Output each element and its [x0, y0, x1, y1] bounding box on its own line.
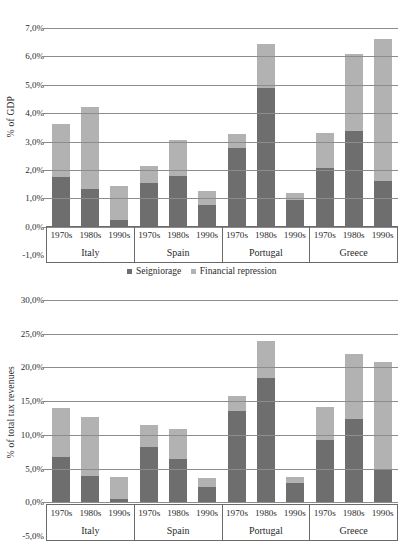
gdp-chart-gridline	[42, 56, 398, 57]
x-axis-period-label: 1980s	[76, 505, 105, 521]
segment-financial-repression	[228, 396, 246, 411]
gdp-chart-y-tick-label: 1,0%	[4, 194, 44, 203]
x-axis-period-label: 1980s	[76, 227, 105, 243]
tax-revenues-chart: % of total tax revenues 30,0%25,0%20,0%1…	[0, 282, 404, 554]
gdp-chart-gridline	[42, 113, 398, 114]
segment-financial-repression	[52, 408, 70, 457]
segment-financial-repression	[140, 425, 158, 447]
segment-financial-repression	[345, 354, 363, 419]
x-axis-country-label: Greece	[310, 521, 397, 540]
segment-seigniorage	[228, 148, 246, 227]
segment-financial-repression	[198, 478, 216, 487]
bar-italy-1970s[interactable]	[52, 300, 70, 536]
bar-spain-1990s[interactable]	[198, 300, 216, 536]
x-axis-period-label: 1970s	[135, 505, 164, 521]
segment-seigniorage	[140, 447, 158, 502]
gdp-chart-y-tick-label: 5,0%	[4, 80, 44, 89]
legend-item-financial_repression: Financial repression	[191, 266, 276, 276]
segment-seigniorage	[140, 183, 158, 227]
x-axis-country-label: Italy	[47, 243, 135, 262]
tax-revenues-chart-gridline	[42, 401, 398, 402]
x-axis-period-label: 1980s	[339, 505, 368, 521]
bar-portugal-1970s[interactable]	[228, 300, 246, 536]
legend-swatch-icon	[127, 269, 132, 274]
gdp-chart-period-row: 1970s1980s1990s1970s1980s1990s1970s1980s…	[47, 227, 397, 243]
bar-italy-1980s[interactable]	[81, 300, 99, 536]
x-axis-country-label: Greece	[310, 243, 397, 262]
bar-greece-1980s[interactable]	[345, 300, 363, 536]
segment-financial-repression	[374, 362, 392, 469]
gdp-chart-y-ticks: 7,0%6,0%5,0%4,0%3,0%2,0%1,0%0,0%-1,0%	[0, 0, 44, 282]
x-axis-period-label: 1990s	[105, 505, 135, 521]
x-axis-period-label: 1970s	[310, 227, 339, 243]
gdp-chart-y-tick-label: -1,0%	[4, 251, 44, 260]
segment-financial-repression	[345, 54, 363, 131]
x-axis-country-label: Portugal	[223, 521, 311, 540]
segment-seigniorage	[198, 205, 216, 227]
segment-seigniorage	[169, 176, 187, 226]
bar-portugal-1990s[interactable]	[286, 300, 304, 536]
tax-revenues-chart-gridline	[42, 300, 398, 301]
tax-revenues-chart-y-tick-label: 5,0%	[4, 464, 44, 473]
chart-legend: SeigniorageFinancial repression	[0, 266, 404, 276]
x-axis-period-label: 1970s	[47, 505, 76, 521]
gdp-chart: % of GDP 7,0%6,0%5,0%4,0%3,0%2,0%1,0%0,0…	[0, 0, 404, 282]
gdp-chart-gridline	[42, 85, 398, 86]
segment-seigniorage	[257, 88, 275, 227]
bar-italy-1990s[interactable]	[110, 300, 128, 536]
x-axis-period-label: 1990s	[105, 227, 135, 243]
segment-seigniorage	[169, 459, 187, 502]
tax-revenues-chart-gridline	[42, 334, 398, 335]
segment-financial-repression	[169, 140, 187, 176]
segment-financial-repression	[257, 44, 275, 87]
x-axis-period-label: 1990s	[280, 505, 310, 521]
x-axis-period-label: 1990s	[368, 505, 397, 521]
segment-financial-repression	[374, 39, 392, 181]
x-axis-country-label: Italy	[47, 521, 135, 540]
segment-financial-repression	[257, 341, 275, 378]
bar-spain-1980s[interactable]	[169, 300, 187, 536]
gdp-chart-gridline	[42, 170, 398, 171]
x-axis-period-label: 1990s	[193, 505, 223, 521]
gdp-chart-y-tick-label: 0,0%	[4, 222, 44, 231]
gdp-chart-y-tick-label: 4,0%	[4, 109, 44, 118]
tax-revenues-chart-y-ticks: 30,0%25,0%20,0%15,0%10,0%5,0%0,0%-5,0%	[0, 282, 44, 554]
x-axis-period-label: 1970s	[223, 227, 252, 243]
tax-revenues-chart-y-tick-label: 0,0%	[4, 498, 44, 507]
gdp-chart-y-tick-label: 6,0%	[4, 52, 44, 61]
x-axis-period-label: 1970s	[47, 227, 76, 243]
tax-revenues-chart-y-tick-label: 15,0%	[4, 397, 44, 406]
segment-seigniorage	[81, 476, 99, 502]
tax-revenues-chart-gridline	[42, 469, 398, 470]
x-axis-country-label: Spain	[135, 243, 223, 262]
tax-revenues-chart-y-tick-label: 10,0%	[4, 430, 44, 439]
gdp-chart-country-row: ItalySpainPortugalGreece	[47, 243, 397, 262]
segment-seigniorage	[374, 181, 392, 226]
tax-revenues-chart-y-tick-label: 25,0%	[4, 329, 44, 338]
x-axis-period-label: 1980s	[339, 227, 368, 243]
bar-greece-1970s[interactable]	[316, 300, 334, 536]
segment-seigniorage	[374, 469, 392, 503]
tax-revenues-chart-bars	[46, 300, 398, 536]
tax-revenues-chart-plot-area	[46, 300, 398, 536]
segment-financial-repression	[286, 477, 304, 484]
bar-greece-1990s[interactable]	[374, 300, 392, 536]
bar-spain-1970s[interactable]	[140, 300, 158, 536]
gdp-chart-y-tick-label: 2,0%	[4, 165, 44, 174]
segment-seigniorage	[257, 378, 275, 502]
legend-swatch-icon	[191, 269, 196, 274]
gdp-chart-gridline	[42, 198, 398, 199]
x-axis-period-label: 1980s	[164, 505, 193, 521]
gdp-chart-gridline	[42, 28, 398, 29]
x-axis-period-label: 1970s	[310, 505, 339, 521]
x-axis-country-label: Spain	[135, 521, 223, 540]
segment-financial-repression	[81, 107, 99, 189]
segment-seigniorage	[228, 411, 246, 503]
segment-financial-repression	[81, 417, 99, 476]
x-axis-period-label: 1980s	[251, 227, 280, 243]
segment-seigniorage	[345, 419, 363, 503]
segment-seigniorage	[52, 457, 70, 502]
bar-portugal-1980s[interactable]	[257, 300, 275, 536]
tax-revenues-chart-x-axis-table: 1970s1980s1990s1970s1980s1990s1970s1980s…	[46, 504, 398, 541]
x-axis-period-label: 1980s	[251, 505, 280, 521]
